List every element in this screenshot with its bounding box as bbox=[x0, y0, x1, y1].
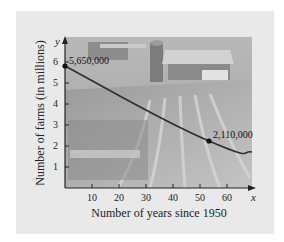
y-tick-label: 5 bbox=[53, 77, 58, 88]
x-tick-label: 60 bbox=[222, 192, 232, 203]
x-tick-label: 40 bbox=[168, 192, 178, 203]
x-tick-label: 20 bbox=[114, 192, 124, 203]
y-tick-label: 3 bbox=[53, 119, 58, 130]
y-tick-label: 2 bbox=[53, 140, 58, 151]
x-axis-title: Number of years since 1950 bbox=[91, 206, 226, 220]
y-axis-variable: y bbox=[54, 35, 60, 47]
y-tick-label: 4 bbox=[53, 98, 58, 109]
point-label-start: 5,650,000 bbox=[69, 55, 109, 66]
y-axis-title: Number of farms (in millions) bbox=[33, 40, 47, 185]
x-tick-label: 10 bbox=[87, 192, 97, 203]
x-tick-label: 30 bbox=[141, 192, 151, 203]
data-point-2003 bbox=[206, 138, 211, 143]
farm-chart: 1 2 3 4 5 6 10 20 30 40 50 60 y x Number… bbox=[0, 0, 284, 242]
x-tick-label: 50 bbox=[195, 192, 205, 203]
y-tick-label: 1 bbox=[53, 161, 58, 172]
data-point-1950 bbox=[62, 63, 67, 68]
y-tick-label: 6 bbox=[53, 56, 58, 67]
x-axis-variable: x bbox=[250, 191, 256, 203]
point-label-end: 2,110,000 bbox=[213, 129, 253, 140]
